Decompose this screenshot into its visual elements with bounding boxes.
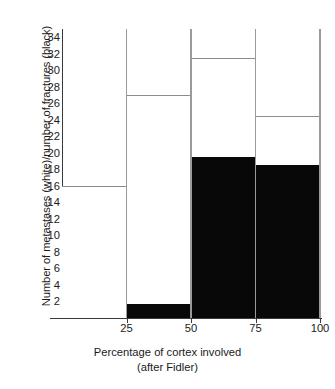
bar-fractures (127, 304, 192, 318)
y-axis-tick-label: 28 (34, 81, 60, 92)
y-axis-tick-label: 34 (34, 32, 60, 43)
bin-divider (319, 29, 320, 318)
bin-divider (190, 29, 191, 318)
y-axis-tick-label: 18 (34, 164, 60, 175)
bin-divider (126, 29, 127, 318)
x-axis-line (50, 318, 322, 319)
y-axis-tick-label: 10 (34, 230, 60, 241)
bin-divider (255, 29, 256, 318)
y-axis-tick-label: 6 (34, 263, 60, 274)
y-axis-tick-label: 32 (34, 48, 60, 59)
bar-fractures (191, 157, 256, 318)
bar-metastases (62, 186, 127, 318)
y-axis-tick-labels: 246810121416182022242628303234 (30, 0, 60, 389)
y-axis-tick-label: 30 (34, 65, 60, 76)
x-axis-title: Percentage of cortex involved (after Fid… (0, 345, 335, 375)
x-axis-title-main: Percentage of cortex involved (94, 346, 241, 358)
bar-fractures (256, 165, 321, 318)
x-axis-tick-label: 75 (236, 322, 276, 334)
bar-metastases (127, 95, 192, 318)
x-axis-tick-label: 25 (107, 322, 147, 334)
x-axis-title-sub: (after Fidler) (0, 360, 335, 375)
y-axis-tick-label: 8 (34, 246, 60, 257)
x-axis-tick-label: 100 (300, 322, 335, 334)
x-axis-tick-label: 50 (171, 322, 211, 334)
y-axis-tick-label: 24 (34, 114, 60, 125)
y-axis-tick-label: 2 (34, 296, 60, 307)
y-axis-tick-label: 20 (34, 147, 60, 158)
y-axis-tick-label: 22 (34, 131, 60, 142)
chart-figure: Number of metastases (white)/number of f… (0, 0, 335, 389)
y-axis-tick-label: 12 (34, 213, 60, 224)
y-axis-tick-label: 26 (34, 98, 60, 109)
y-axis-tick-label: 4 (34, 279, 60, 290)
y-axis-tick-label: 14 (34, 197, 60, 208)
y-axis-tick-label: 16 (34, 180, 60, 191)
